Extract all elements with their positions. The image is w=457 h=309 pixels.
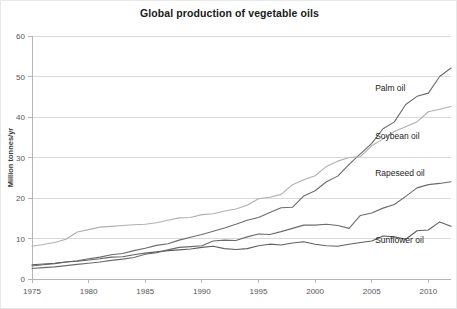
y-axis-title: Million tonnes/yr <box>6 128 15 188</box>
x-tick-label: 2000 <box>306 287 324 296</box>
series-label-soybean-oil: Soybean oil <box>375 131 420 141</box>
x-tick-label: 1985 <box>136 287 154 296</box>
chart-plot-area: 0102030405060197519801985199019952000200… <box>1 1 457 309</box>
y-tick-label: 20 <box>16 194 25 203</box>
x-tick-label: 1975 <box>23 287 41 296</box>
x-tick-label: 1980 <box>80 287 98 296</box>
series-label-palm-oil: Palm oil <box>375 83 405 93</box>
vegetable-oils-line-chart: Global production of vegetable oils 0102… <box>0 0 457 309</box>
x-tick-label: 2010 <box>419 287 437 296</box>
x-tick-label: 1995 <box>250 287 268 296</box>
x-tick-label: 2005 <box>363 287 381 296</box>
y-tick-label: 50 <box>16 73 25 82</box>
series-label-sunflower-oil: Sunflower oil <box>375 235 424 245</box>
y-tick-label: 60 <box>16 32 25 41</box>
y-tick-label: 0 <box>21 275 26 284</box>
y-tick-label: 30 <box>16 154 25 163</box>
x-tick-label: 1990 <box>193 287 211 296</box>
y-tick-label: 10 <box>16 235 25 244</box>
series-label-rapeseed-oil: Rapeseed oil <box>375 168 425 178</box>
series-line-rapeseed-oil <box>32 182 451 269</box>
y-tick-label: 40 <box>16 113 25 122</box>
